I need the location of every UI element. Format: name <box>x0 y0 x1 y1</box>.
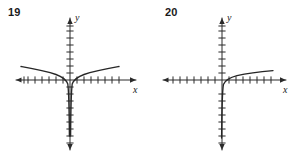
y-axis-arrow-down-19 <box>67 144 72 150</box>
x-axis-arrow-left-20 <box>163 77 169 82</box>
figure-sheet: 19 <box>0 0 294 157</box>
plot-area-20: x y <box>147 0 294 157</box>
x-axis-arrow-right-19 <box>130 77 136 83</box>
x-axis-label-20: x <box>282 84 288 95</box>
plot-area-19: x y <box>0 0 147 157</box>
x-axis-arrow-left-19 <box>16 77 22 82</box>
x-axis-label-19: x <box>132 84 138 95</box>
y-axis-arrow-up-19 <box>67 18 72 24</box>
y-axis-label-20: y <box>226 12 232 23</box>
y-axis-label-19: y <box>74 12 80 23</box>
y-axis-arrow-down-20 <box>219 144 224 150</box>
figure-panel-19: 19 <box>0 0 147 157</box>
y-axis-arrow-up-20 <box>219 18 224 24</box>
figure-panel-20: 20 <box>147 0 294 157</box>
x-axis-arrow-right-20 <box>280 77 286 83</box>
